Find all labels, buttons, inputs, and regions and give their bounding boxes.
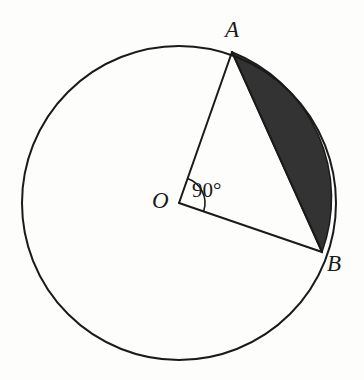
radius-line-ob — [179, 203, 322, 252]
circle-diagram-svg — [0, 0, 364, 380]
point-label-a: A — [225, 18, 239, 41]
point-label-b: B — [327, 252, 341, 275]
angle-measure-label: 90° — [192, 180, 221, 201]
point-label-o: O — [152, 189, 169, 212]
shaded-segment-region — [232, 52, 332, 252]
geometry-figure: A B O 90° — [0, 0, 364, 380]
